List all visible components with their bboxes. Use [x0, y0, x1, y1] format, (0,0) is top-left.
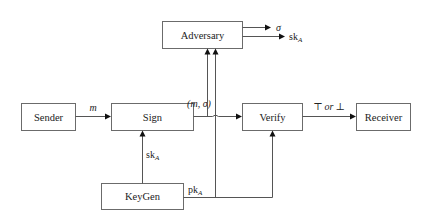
arrowhead-icon — [205, 49, 211, 55]
arrowhead-icon — [350, 114, 356, 120]
edge-label-sigma-forgery: σ — [276, 22, 282, 33]
arrowhead-icon — [270, 131, 276, 137]
arrowhead-icon — [265, 25, 271, 31]
sign-label: Sign — [143, 112, 163, 123]
edge-label-m: m — [89, 102, 96, 113]
verify-label: Verify — [259, 112, 286, 123]
keygen-node: KeyGen — [102, 184, 184, 210]
arrowhead-icon — [140, 131, 146, 137]
arrowhead-icon — [236, 114, 242, 120]
edge-label-pk: pkA — [188, 184, 203, 197]
edge-adversary-sigma: σ — [243, 22, 283, 33]
adversary-label: Adversary — [181, 30, 225, 41]
edge-sign-to-verify: (m, σ) — [187, 98, 242, 120]
sender-label: Sender — [34, 112, 64, 123]
edge-label-sk: skA — [146, 149, 160, 162]
edge-keygen-to-sign: skA — [140, 131, 160, 184]
arrowhead-icon — [279, 34, 285, 40]
edge-verify-to-receiver: ⊤or⊥ — [303, 101, 357, 120]
sign-node: Sign — [112, 104, 194, 131]
receiver-label: Receiver — [365, 112, 403, 123]
adversary-node: Adversary — [163, 22, 243, 49]
receiver-node: Receiver — [357, 104, 411, 131]
arrowhead-icon — [105, 114, 111, 120]
arrowhead-icon — [213, 49, 219, 55]
edge-label-sk-forgery: skA — [289, 31, 303, 44]
edge-adversary-sk: skA — [243, 31, 303, 44]
edge-sender-to-sign: m — [76, 102, 112, 120]
verify-node: Verify — [243, 104, 303, 131]
signature-scheme-diagram: Adversary Sender Sign Verify Receiver Ke… — [0, 0, 434, 220]
edge-label-verdict: ⊤or⊥ — [313, 101, 345, 112]
sender-node: Sender — [22, 104, 76, 131]
keygen-label: KeyGen — [125, 191, 161, 202]
